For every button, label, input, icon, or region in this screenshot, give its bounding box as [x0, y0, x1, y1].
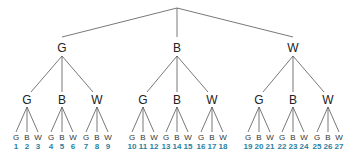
leaf-node: W	[104, 134, 112, 142]
leaf-node: W	[184, 134, 192, 142]
leaf-node: G	[245, 134, 251, 142]
leaf-number: 12	[150, 143, 159, 151]
leaf-number: 15	[184, 143, 193, 151]
leaf-node: B	[140, 134, 145, 142]
leaf-node: B	[59, 134, 64, 142]
level2-node: B	[289, 94, 297, 106]
leaf-node: G	[83, 134, 89, 142]
leaf-number: 5	[60, 143, 64, 151]
leaf-node: G	[13, 134, 19, 142]
level2-node: W	[322, 94, 333, 106]
leaf-number: 8	[95, 143, 99, 151]
level1-node: B	[173, 42, 181, 54]
leaf-node: B	[325, 134, 330, 142]
leaf-number: 20	[255, 143, 264, 151]
leaf-number: 18	[219, 143, 228, 151]
level2-node: G	[22, 94, 31, 106]
leaf-number: 17	[208, 143, 217, 151]
leaf-node: B	[174, 134, 179, 142]
leaf-node: G	[279, 134, 285, 142]
leaf-node: G	[129, 134, 135, 142]
level2-node: W	[91, 94, 102, 106]
leaf-node: W	[266, 134, 274, 142]
leaf-number: 9	[106, 143, 110, 151]
leaf-node: G	[198, 134, 204, 142]
leaf-number: 1	[14, 143, 18, 151]
leaf-number: 14	[173, 143, 182, 151]
leaf-number: 23	[289, 143, 298, 151]
leaf-node: W	[219, 134, 227, 142]
leaf-node: G	[314, 134, 320, 142]
leaf-node: B	[24, 134, 29, 142]
leaf-number: 27	[335, 143, 344, 151]
leaf-number: 10	[128, 143, 137, 151]
leaf-node: B	[94, 134, 99, 142]
leaf-number: 22	[278, 143, 287, 151]
leaf-number: 13	[162, 143, 171, 151]
leaf-number: 21	[266, 143, 275, 151]
leaf-number: 3	[36, 143, 40, 151]
leaf-node: B	[290, 134, 295, 142]
leaf-number: 2	[25, 143, 29, 151]
leaf-node: W	[300, 134, 308, 142]
leaf-number: 26	[324, 143, 333, 151]
level2-node: G	[254, 94, 263, 106]
leaf-number: 11	[139, 143, 147, 151]
leaf-node: G	[48, 134, 54, 142]
leaf-node: W	[150, 134, 158, 142]
leaf-number: 7	[84, 143, 88, 151]
leaf-number: 16	[197, 143, 206, 151]
leaf-node: G	[163, 134, 169, 142]
level2-node: G	[138, 94, 147, 106]
level1-node: W	[287, 42, 298, 54]
level1-node: G	[57, 42, 66, 54]
leaf-node: W	[335, 134, 343, 142]
leaf-number: 25	[313, 143, 322, 151]
leaf-number: 24	[300, 143, 309, 151]
leaf-node: B	[209, 134, 214, 142]
level2-node: B	[173, 94, 181, 106]
level2-node: B	[58, 94, 66, 106]
leaf-number: 6	[71, 143, 75, 151]
leaf-number: 19	[244, 143, 253, 151]
level2-node: W	[206, 94, 217, 106]
leaf-node: B	[256, 134, 261, 142]
leaf-node: W	[69, 134, 77, 142]
leaf-node: W	[34, 134, 42, 142]
leaf-number: 4	[49, 143, 53, 151]
